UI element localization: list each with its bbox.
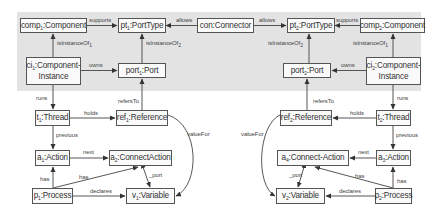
node-type: :Variable xyxy=(289,191,319,200)
node-name: ref xyxy=(117,113,126,122)
node-name: ref xyxy=(281,113,290,122)
label-valuefor-1: valueFor xyxy=(187,131,210,137)
label-text: isInstanceOf xyxy=(353,40,385,46)
node-type: :Connect-Action xyxy=(289,153,345,162)
label-text: isInstanceOf xyxy=(146,40,178,46)
node-con: con:Connector xyxy=(197,18,254,33)
label-has-p1-a2: has xyxy=(79,174,88,180)
node-type: :Port xyxy=(142,66,159,75)
label-subscript: 2 xyxy=(178,42,181,48)
node-a1: a1:Action xyxy=(35,150,70,166)
label-refersto-1: refersTo xyxy=(118,98,139,104)
node-type: :Reference xyxy=(129,113,168,122)
node-comp1: comp1:Component xyxy=(20,18,87,33)
label-has-p1-a1: has xyxy=(40,176,49,182)
node-a3: a3:Action xyxy=(376,150,411,166)
node-type: :PortType xyxy=(299,21,333,30)
node-type: :Process xyxy=(382,191,413,200)
label-valuefor-2: valueFor xyxy=(241,131,264,137)
label-subscript: 2 xyxy=(300,42,303,48)
label-port-2: _port xyxy=(289,172,302,178)
node-comp2: comp2:Component xyxy=(360,18,425,33)
label-next-2: next xyxy=(358,149,369,155)
label-isinstanceof-comp1: isInstanceOf1 xyxy=(57,40,92,46)
label-holds-2: holds xyxy=(350,110,364,116)
node-type-line2: Instance xyxy=(379,71,409,82)
node-type-line2: Instance xyxy=(39,71,69,82)
node-a4: a4:Connect-Action xyxy=(277,150,349,166)
label-text: isInstanceOf xyxy=(268,40,300,46)
node-name: port xyxy=(291,66,305,75)
node-name: port xyxy=(126,66,140,75)
node-type: :PortType xyxy=(130,21,164,30)
node-ci1: ci1:Component-Instance xyxy=(26,57,81,85)
node-type: :Component- xyxy=(375,61,421,70)
node-type: :Port xyxy=(307,66,324,75)
label-isinstanceof-pt2: isInstanceOf2 xyxy=(268,40,303,46)
node-type: :Component xyxy=(382,21,425,30)
label-subscript: 1 xyxy=(89,42,92,48)
node-ci2: ci2:Component-Instance xyxy=(366,57,421,85)
node-port2: port2:Port xyxy=(283,63,331,78)
node-type: :Thread xyxy=(41,113,68,122)
edge-has-p1-a2 xyxy=(53,167,138,188)
label-previous-2: previous xyxy=(396,132,418,138)
node-p2: p2:Process xyxy=(375,188,412,204)
node-type: :Reference xyxy=(293,113,332,122)
label-previous-1: previous xyxy=(56,132,78,138)
node-type: :Thread xyxy=(382,113,409,122)
label-port-1: _port xyxy=(149,172,162,178)
node-t1: t1:Thread xyxy=(35,110,70,126)
node-type: :Action xyxy=(44,153,68,162)
node-v1: v1:Variable xyxy=(126,188,175,204)
label-holds-1: holds xyxy=(84,110,98,116)
label-runs-1: runs xyxy=(36,95,47,101)
node-t2: t2:Thread xyxy=(376,110,411,126)
label-has-p2-a3: has xyxy=(397,178,406,184)
node-type: :Action xyxy=(385,153,409,162)
node-name: comp xyxy=(21,21,40,30)
node-ref2: ref2:Reference xyxy=(280,110,332,126)
node-name: comp xyxy=(360,21,379,30)
label-isinstanceof-comp2: isInstanceOf1 xyxy=(353,40,388,46)
label-next-1: next xyxy=(83,149,94,155)
label-owns-1: owns xyxy=(89,62,103,68)
node-type: :ConnectAction xyxy=(117,153,170,162)
label-declares-2: declares xyxy=(339,188,361,194)
node-p1: p1:Process xyxy=(32,188,73,204)
label-subscript: 1 xyxy=(385,42,388,48)
node-name: con xyxy=(200,21,213,30)
label-allows-2: allows xyxy=(259,17,275,23)
label-owns-2: owns xyxy=(341,62,355,68)
label-declares-1: declares xyxy=(90,188,112,194)
node-ref1: ref1:Reference xyxy=(116,110,168,126)
label-runs-2: runs xyxy=(397,95,408,101)
label-supports-2: supports xyxy=(336,17,358,23)
label-supports-1: supports xyxy=(89,17,111,23)
node-port1: port1:Port xyxy=(118,63,166,78)
label-isinstanceof-pt1: isInstanceOf2 xyxy=(146,40,181,46)
node-type: :Process xyxy=(41,191,72,200)
node-type: :Connector xyxy=(213,21,252,30)
edge-has-p2-a4 xyxy=(315,167,393,188)
node-type: :Component- xyxy=(35,61,81,70)
label-text: isInstanceOf xyxy=(57,40,89,46)
node-type: :Component xyxy=(43,21,86,30)
node-pt1: pt1:PortType xyxy=(118,18,166,33)
label-has-p2-a4: has xyxy=(355,173,364,179)
node-pt2: pt2:PortType xyxy=(287,18,335,33)
label-refersto-2: refersTo xyxy=(313,98,334,104)
node-type: :Variable xyxy=(139,191,169,200)
node-a2: a2:ConnectAction xyxy=(109,150,172,166)
node-v2: v2:Variable xyxy=(276,188,325,204)
label-allows-1: allows xyxy=(176,17,192,23)
